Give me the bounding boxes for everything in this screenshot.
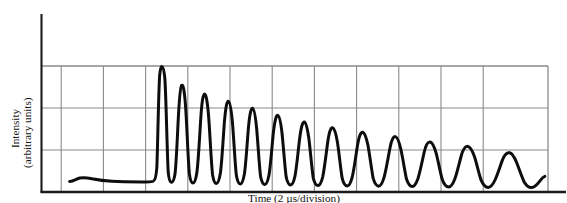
chart-background	[0, 0, 567, 203]
y-axis-label-line1: Intensity	[9, 108, 21, 148]
y-axis-label-line2: (arbitrary units)	[21, 97, 34, 168]
x-axis-label: Time (2 µs/division)	[248, 192, 340, 203]
chart-svg: Intensity (arbitrary units) Time (2 µs/d…	[0, 0, 567, 203]
chart-figure: Intensity (arbitrary units) Time (2 µs/d…	[0, 0, 567, 203]
